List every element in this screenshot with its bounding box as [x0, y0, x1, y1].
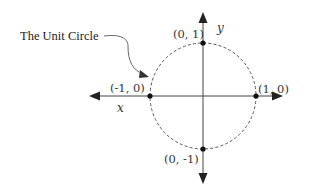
x-axis-left-arrow-icon [89, 92, 100, 101]
point-label-right: (1, 0) [258, 82, 289, 96]
point-label-left: (-1, 0) [110, 81, 145, 95]
point-label-top: (0, 1) [173, 27, 204, 41]
y-axis-up-arrow-icon [199, 12, 208, 23]
point-left [147, 93, 152, 98]
title-pointer-line [104, 35, 143, 74]
point-label-bottom: (0, -1) [164, 152, 199, 166]
title-pointer-arrow-icon [139, 70, 149, 78]
point-bottom [200, 146, 205, 151]
diagram-title: The Unit Circle [20, 29, 99, 43]
x-axis-label: x [117, 101, 124, 115]
point-top [200, 40, 205, 45]
unit-circle-diagram: (0, 1) (1, 0) (-1, 0) (0, -1) x y The Un… [0, 0, 329, 193]
y-axis-label: y [216, 21, 224, 35]
y-axis-down-arrow-icon [199, 173, 208, 184]
